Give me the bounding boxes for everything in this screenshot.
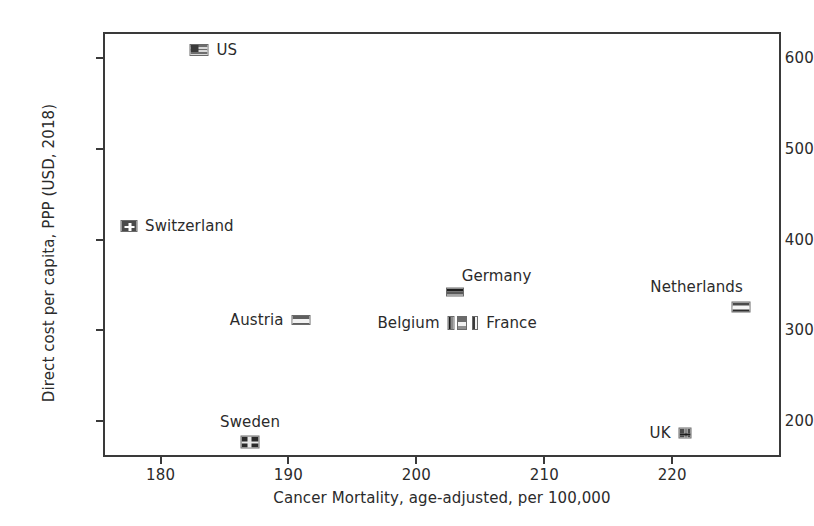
data-point-us[interactable] bbox=[189, 44, 208, 56]
data-point-label-sweden: Sweden bbox=[220, 413, 280, 431]
data-point-uk[interactable] bbox=[679, 428, 692, 439]
data-point-sweden[interactable] bbox=[241, 435, 260, 448]
flag-icon-belgium bbox=[447, 316, 454, 330]
x-axis-title: Cancer Mortality, age-adjusted, per 100,… bbox=[103, 489, 781, 507]
data-point-label-austria: Austria bbox=[230, 311, 284, 329]
flag-icon-netherlands bbox=[732, 301, 751, 312]
x-tick-mark bbox=[160, 457, 162, 464]
data-point-netherlands[interactable] bbox=[732, 301, 751, 312]
flag-icon-germany bbox=[446, 288, 464, 297]
data-point-luxembourg[interactable] bbox=[457, 316, 467, 330]
flag-icon-france bbox=[472, 316, 478, 330]
data-point-austria[interactable] bbox=[292, 315, 311, 325]
data-point-label-switzerland: Switzerland bbox=[145, 217, 234, 235]
y-tick-label: 400 bbox=[728, 231, 814, 249]
flag-icon-us bbox=[189, 44, 208, 56]
y-tick-mark bbox=[96, 239, 103, 241]
flag-icon-sweden bbox=[241, 435, 260, 448]
data-point-label-germany: Germany bbox=[462, 267, 532, 285]
flag-icon-luxembourg bbox=[457, 316, 467, 330]
data-point-label-us: US bbox=[216, 41, 237, 59]
x-tick-label: 190 bbox=[258, 466, 318, 484]
plot-area bbox=[103, 32, 781, 457]
x-tick-label: 200 bbox=[386, 466, 446, 484]
y-tick-label: 300 bbox=[728, 321, 814, 339]
y-tick-mark bbox=[96, 329, 103, 331]
y-tick-label: 600 bbox=[728, 49, 814, 67]
flag-icon-uk bbox=[679, 428, 692, 439]
x-tick-mark bbox=[287, 457, 289, 464]
data-point-germany[interactable] bbox=[446, 288, 464, 297]
y-tick-mark bbox=[96, 148, 103, 150]
data-point-switzerland[interactable] bbox=[120, 220, 137, 232]
x-tick-label: 210 bbox=[514, 466, 574, 484]
data-point-label-netherlands: Netherlands bbox=[650, 278, 743, 296]
y-axis-title: Direct cost per capita, PPP (USD, 2018) bbox=[40, 53, 58, 453]
data-point-label-belgium: Belgium bbox=[377, 314, 439, 332]
data-point-france[interactable] bbox=[472, 316, 478, 330]
y-tick-label: 500 bbox=[728, 140, 814, 158]
y-tick-mark bbox=[96, 420, 103, 422]
x-tick-mark bbox=[671, 457, 673, 464]
flag-icon-austria bbox=[292, 315, 311, 325]
x-tick-mark bbox=[415, 457, 417, 464]
x-tick-label: 180 bbox=[131, 466, 191, 484]
data-point-belgium[interactable] bbox=[447, 316, 454, 330]
y-tick-mark bbox=[96, 57, 103, 59]
y-tick-label: 200 bbox=[728, 412, 814, 430]
flag-icon-switzerland bbox=[120, 220, 137, 232]
x-tick-label: 220 bbox=[642, 466, 702, 484]
x-tick-mark bbox=[543, 457, 545, 464]
scatter-chart-figure: USSwitzerlandGermanyAustriaBelgiumFrance… bbox=[0, 0, 814, 526]
data-point-label-uk: UK bbox=[650, 424, 671, 442]
data-point-label-france: France bbox=[486, 314, 536, 332]
